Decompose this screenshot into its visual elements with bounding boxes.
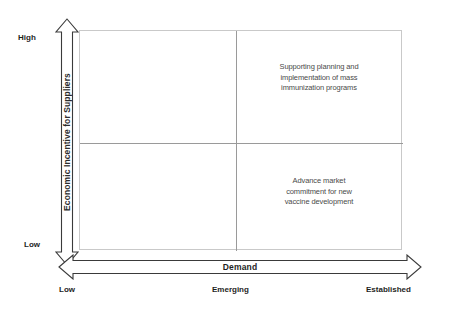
- diagram-canvas: Supporting planning and implementation o…: [0, 0, 449, 309]
- quadrant-lower-right-line-1: Advance market: [244, 176, 394, 187]
- quadrant-lower-right-line-3: vaccine development: [244, 197, 394, 208]
- x-axis-tick-established: Established: [366, 285, 411, 294]
- quadrant-upper-right-line-3: immunization programs: [244, 83, 394, 94]
- quadrant-upper-right-line-2: implementation of mass: [244, 73, 394, 84]
- x-axis-double-arrow-icon: [58, 254, 422, 280]
- x-axis-tick-low: Low: [59, 285, 75, 294]
- y-axis-double-arrow-icon: [55, 18, 79, 266]
- vertical-divider-line: [236, 31, 237, 251]
- quadrant-lower-right-line-2: commitment for new: [244, 187, 394, 198]
- x-axis-tick-emerging: Emerging: [212, 285, 249, 294]
- quadrant-lower-right-text: Advance market commitment for new vaccin…: [244, 176, 394, 208]
- quadrant-upper-right-text: Supporting planning and implementation o…: [244, 62, 394, 94]
- y-axis-tick-high: High: [18, 33, 36, 42]
- quadrant-upper-right-line-1: Supporting planning and: [244, 62, 394, 73]
- quadrant-lower-left: [80, 143, 156, 249]
- y-axis-tick-low: Low: [24, 240, 40, 249]
- quadrant-upper-left: [80, 31, 156, 142]
